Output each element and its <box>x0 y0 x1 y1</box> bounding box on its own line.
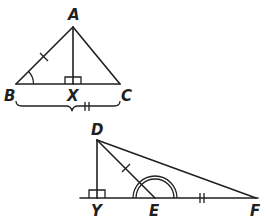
segment-de <box>97 140 155 198</box>
label-e: E <box>149 202 160 220</box>
label-d: D <box>91 121 103 139</box>
segment-ac <box>73 27 120 84</box>
label-f: F <box>250 202 261 220</box>
angle-arc-e-inner <box>136 179 174 198</box>
label-a: A <box>67 6 80 24</box>
geometry-figure: A B X C D Y E F <box>0 0 266 221</box>
triangle-def: D Y E F <box>80 121 261 220</box>
label-b: B <box>4 87 15 105</box>
segment-df <box>97 140 256 198</box>
angle-arc-b <box>29 72 34 85</box>
label-x: X <box>66 87 80 105</box>
label-c: C <box>121 87 132 105</box>
segment-ab <box>16 27 73 84</box>
label-y: Y <box>91 202 104 220</box>
triangle-abc: A B X C <box>4 6 132 111</box>
